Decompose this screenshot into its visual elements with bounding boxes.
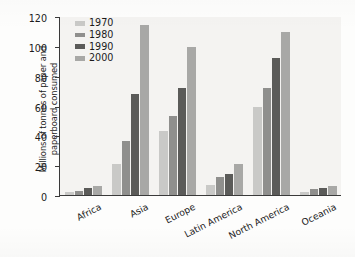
y-axis-tick: 100: [55, 47, 60, 48]
legend-item: 1980: [75, 30, 113, 41]
bar: [122, 141, 131, 195]
bar: [319, 188, 328, 195]
bar: [159, 131, 168, 195]
y-axis-tick: 120: [55, 17, 60, 18]
bar-group: [300, 17, 336, 195]
y-axis-tick-label: 60: [35, 102, 47, 113]
bar: [328, 186, 337, 195]
bar: [131, 94, 140, 195]
legend-swatch-icon: [75, 21, 85, 26]
legend-swatch-icon: [75, 56, 85, 61]
x-axis-category-label: Africa: [74, 201, 102, 223]
bar: [65, 192, 74, 195]
bar: [310, 189, 319, 195]
bar: [178, 88, 187, 195]
legend-item: 1970: [75, 18, 113, 29]
bar: [93, 186, 102, 195]
bar-group: [159, 17, 195, 195]
y-axis-tick: 0: [55, 196, 60, 197]
legend-item: 2000: [75, 53, 113, 64]
bar: [75, 191, 84, 195]
bar: [140, 25, 149, 195]
bar: [234, 164, 243, 195]
y-axis-tick: 80: [55, 77, 60, 78]
legend-item: 1990: [75, 41, 113, 52]
bar: [253, 107, 262, 195]
bar-group: [206, 17, 242, 195]
legend-label: 1970: [89, 18, 113, 28]
bar: [84, 188, 93, 195]
bar: [300, 192, 309, 195]
bar: [281, 32, 290, 195]
bar-group: [253, 17, 289, 195]
chart-figure: Millions of tonnes of paper and paperboa…: [0, 0, 355, 257]
legend-label: 1990: [89, 42, 113, 52]
y-axis-tick: 20: [55, 166, 60, 167]
bar: [263, 88, 272, 195]
y-axis-tick-label: 100: [29, 42, 47, 53]
chart-legend: 1970198019902000: [75, 18, 113, 64]
bar: [112, 164, 121, 195]
bar: [225, 174, 234, 195]
y-axis-tick-label: 0: [41, 192, 47, 203]
bar: [272, 58, 281, 195]
y-axis-tick-label: 80: [35, 72, 47, 83]
legend-label: 2000: [89, 53, 113, 63]
y-axis-tick: 40: [55, 136, 60, 137]
legend-swatch-icon: [75, 33, 85, 38]
y-axis-tick: 60: [55, 107, 60, 108]
y-axis-tick-label: 120: [29, 13, 47, 24]
x-axis-category-label: Asia: [127, 201, 149, 220]
legend-swatch-icon: [75, 44, 85, 49]
bar-group: [112, 17, 148, 195]
y-axis-tick-label: 40: [35, 132, 47, 143]
bar: [187, 47, 196, 195]
x-axis-category-label: Oceania: [299, 201, 337, 228]
y-axis-tick-label: 20: [35, 162, 47, 173]
bar: [169, 116, 178, 195]
legend-label: 1980: [89, 30, 113, 40]
bar: [206, 185, 215, 195]
x-axis-category-label: Europe: [163, 201, 197, 225]
bar: [216, 177, 225, 195]
